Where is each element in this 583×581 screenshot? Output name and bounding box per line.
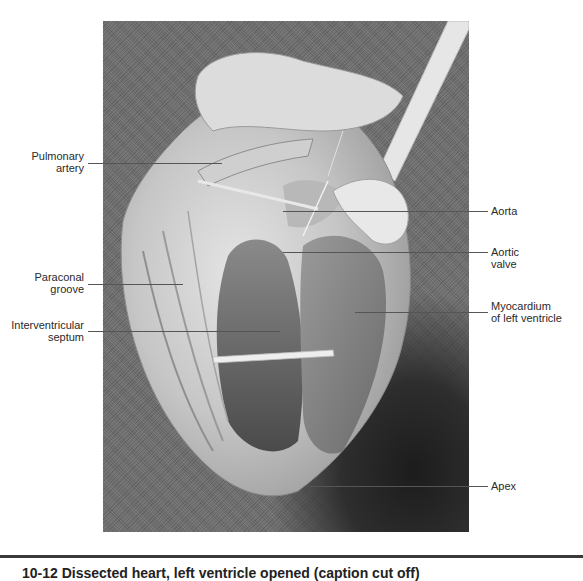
label-line: artery (2, 162, 84, 174)
label-line: Myocardium (491, 300, 583, 312)
leader-interventricular-septum (88, 331, 280, 332)
leader-aorta (283, 211, 488, 212)
figure-caption: 10-12 Dissected heart, left ventricle op… (22, 565, 420, 581)
leader-myocardium (355, 312, 488, 313)
heart-illustration (103, 21, 469, 532)
leader-pulmonary-artery (88, 163, 222, 164)
label-line: Aortic (491, 246, 581, 258)
label-paraconal-groove: Paraconal groove (2, 271, 84, 295)
label-line: Paraconal (2, 271, 84, 283)
label-line: groove (2, 283, 84, 295)
label-pulmonary-artery: Pulmonary artery (2, 150, 84, 174)
label-aorta: Aorta (491, 205, 581, 217)
label-line: septum (2, 331, 84, 343)
label-aortic-valve: Aortic valve (491, 246, 581, 270)
label-line: Pulmonary (2, 150, 84, 162)
label-myocardium: Myocardium of left ventricle (491, 300, 583, 324)
label-interventricular-septum: Interventricular septum (2, 319, 84, 343)
label-line: Interventricular (2, 319, 84, 331)
leader-paraconal-groove (88, 284, 183, 285)
label-line: of left ventricle (491, 312, 583, 324)
caption-divider (0, 555, 583, 558)
label-line: valve (491, 258, 581, 270)
label-line: Aorta (491, 205, 581, 217)
heart-photograph (103, 21, 469, 532)
label-apex: Apex (491, 480, 581, 492)
leader-aortic-valve (283, 252, 488, 253)
label-line: Apex (491, 480, 581, 492)
leader-apex (310, 486, 488, 487)
